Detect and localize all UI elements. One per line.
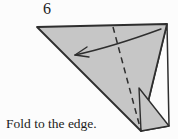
instruction-caption: Fold to the edge.	[6, 116, 97, 132]
origami-instruction-step: 6 Fold to the edge.	[0, 0, 178, 139]
